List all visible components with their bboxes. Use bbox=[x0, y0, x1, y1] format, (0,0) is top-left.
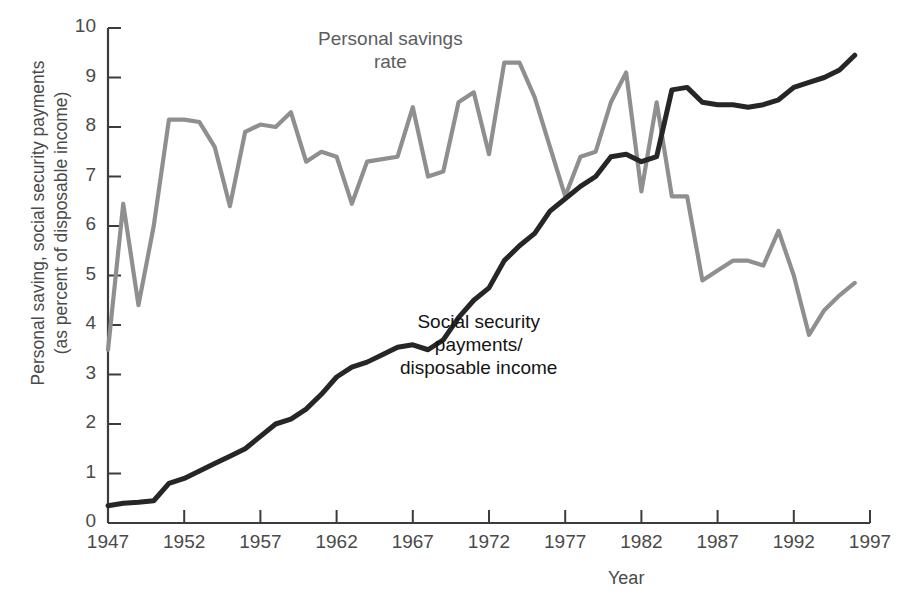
annotation-personal-savings-rate: Personal savings rate bbox=[318, 27, 463, 73]
series-group bbox=[108, 55, 855, 505]
chart-container: 012345678910 194719521957196219671972197… bbox=[0, 0, 902, 604]
x-tick-label-1977: 1977 bbox=[530, 531, 600, 553]
axis-group bbox=[108, 28, 870, 523]
x-axis-title: Year bbox=[608, 568, 644, 589]
annotation-social-security-payments: Social security payments/ disposable inc… bbox=[400, 310, 557, 379]
x-tick-label-1992: 1992 bbox=[759, 531, 829, 553]
x-tick-label-1997: 1997 bbox=[835, 531, 902, 553]
y-axis-title-line2: (as percent of disposable income) bbox=[50, 13, 73, 433]
x-tick-label-1967: 1967 bbox=[378, 531, 448, 553]
x-tick-label-1972: 1972 bbox=[454, 531, 524, 553]
x-tick-label-1962: 1962 bbox=[302, 531, 372, 553]
y-tick-label-0: 0 bbox=[62, 510, 96, 532]
x-tick-label-1957: 1957 bbox=[225, 531, 295, 553]
x-tick-label-1982: 1982 bbox=[606, 531, 676, 553]
plot-area bbox=[0, 0, 902, 604]
y-axis-title: Personal saving, social security payment… bbox=[27, 13, 73, 433]
y-tick-label-1: 1 bbox=[62, 461, 96, 483]
x-tick-label-1947: 1947 bbox=[73, 531, 143, 553]
y-axis-title-line1: Personal saving, social security payment… bbox=[27, 13, 50, 433]
x-tick-label-1952: 1952 bbox=[149, 531, 219, 553]
x-tick-label-1987: 1987 bbox=[683, 531, 753, 553]
